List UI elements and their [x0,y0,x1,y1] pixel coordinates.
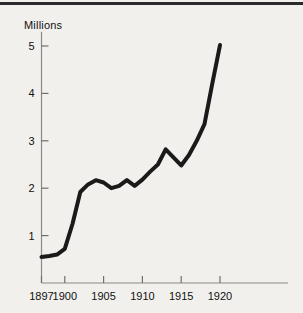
x-tick-label: 1910 [130,290,154,302]
x-tick-label: 1915 [169,290,193,302]
y-axis: 12345 [28,32,48,283]
x-tick-label: 1905 [91,290,115,302]
x-tick-label: 1897 [29,290,53,302]
chart-figure: Millions 12345 189719001905191019151920 [0,0,303,313]
data-series [42,45,221,257]
y-tick-label: 5 [28,40,34,52]
line-chart-plot: 12345 189719001905191019151920 [0,0,303,313]
y-tick-label: 4 [28,87,34,99]
x-tick-label: 1900 [53,290,77,302]
y-tick-label: 3 [28,135,34,147]
y-tick-label: 1 [28,230,34,242]
x-axis: 189719001905191019151920 [29,276,288,302]
x-tick-label: 1920 [208,290,232,302]
y-tick-label: 2 [28,182,34,194]
series-line [42,45,221,257]
